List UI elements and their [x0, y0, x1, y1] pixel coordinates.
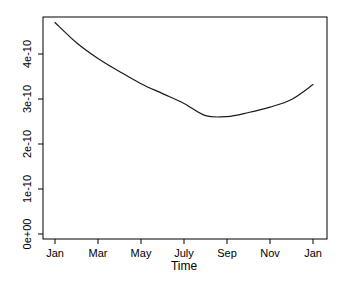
y-tick-label: 1e-10: [21, 175, 33, 203]
x-axis-title: Time: [171, 259, 198, 273]
x-tick-label: Jan: [304, 247, 322, 259]
x-tick-label: Mar: [89, 247, 108, 259]
x-tick-label: Jan: [46, 247, 64, 259]
time-series-line-chart: JanMarMayJulySepNovJan0e+001e-102e-103e-…: [0, 0, 343, 284]
x-tick-label: July: [174, 247, 194, 259]
x-tick-label: Sep: [217, 247, 237, 259]
y-tick-label: 0e+00: [21, 219, 33, 250]
plot-figure: JanMarMayJulySepNovJan0e+001e-102e-103e-…: [0, 0, 343, 284]
x-tick-label: Nov: [260, 247, 280, 259]
y-tick-label: 2e-10: [21, 130, 33, 158]
data-series-line: [55, 23, 313, 118]
y-tick-label: 3e-10: [21, 85, 33, 113]
y-tick-label: 4e-10: [21, 40, 33, 68]
x-tick-label: May: [131, 247, 152, 259]
